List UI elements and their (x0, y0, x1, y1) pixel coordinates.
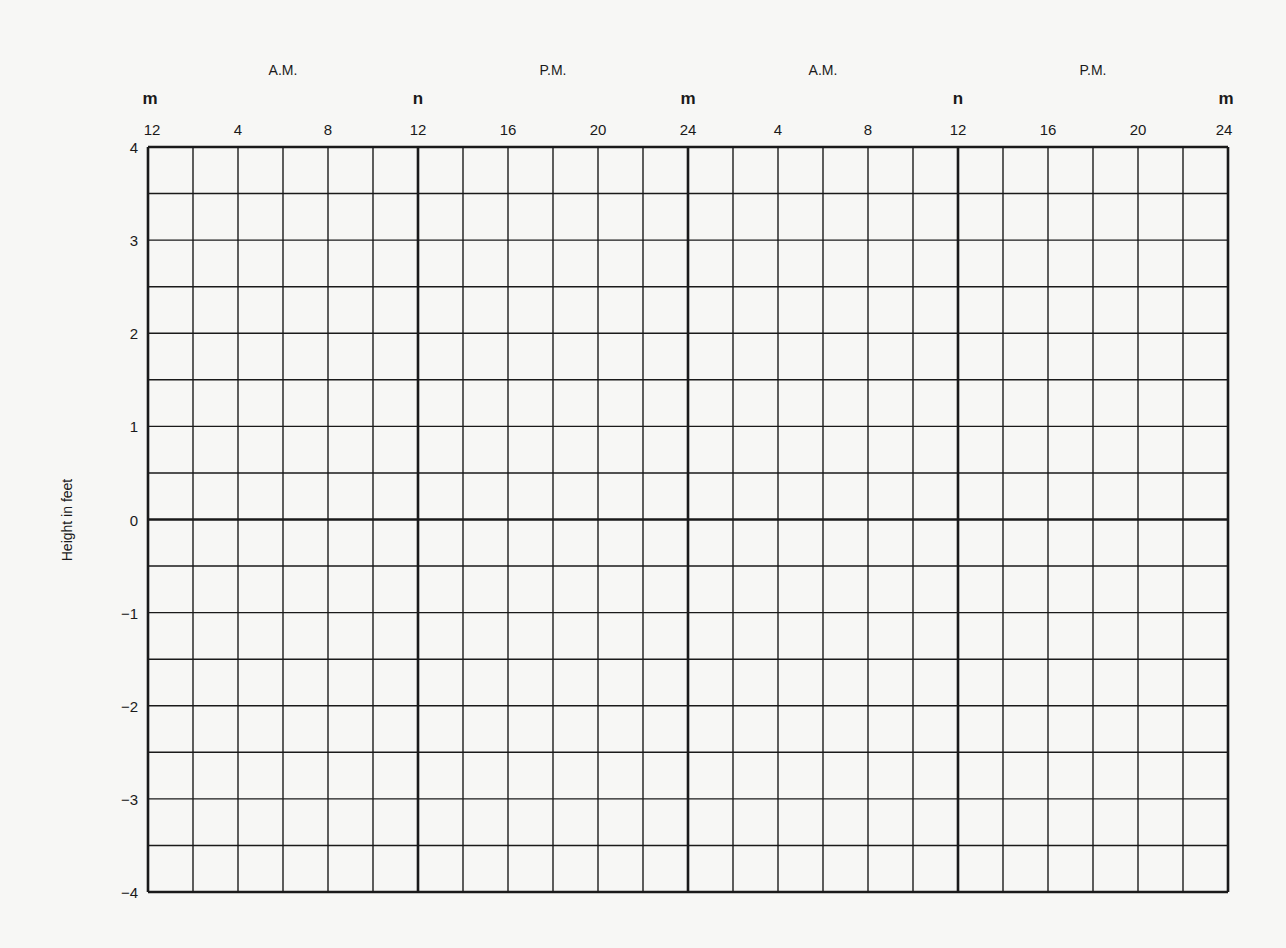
y-tick-label: 2 (130, 325, 138, 342)
midnight-marker: m (142, 89, 157, 109)
midnight-marker: m (680, 89, 695, 109)
x-tick-label: 4 (774, 121, 782, 138)
period-label: P.M. (540, 62, 567, 78)
x-tick-label: 24 (1216, 121, 1233, 138)
x-tick-label: 16 (1040, 121, 1057, 138)
x-tick-label: 8 (324, 121, 332, 138)
y-tick-label: −1 (121, 604, 138, 621)
midnight-marker: m (1218, 89, 1233, 109)
noon-marker: n (413, 89, 423, 109)
x-tick-label: 16 (500, 121, 517, 138)
y-tick-label: −2 (121, 697, 138, 714)
y-tick-label: 0 (130, 511, 138, 528)
period-label: P.M. (1080, 62, 1107, 78)
x-tick-label: 12 (410, 121, 427, 138)
x-tick-label: 20 (590, 121, 607, 138)
tide-chart: A.M.P.M.A.M.P.M.mnmnm1248121620244812162… (0, 0, 1286, 948)
y-tick-label: 4 (130, 139, 138, 156)
y-tick-label: 3 (130, 232, 138, 249)
y-axis-label: Height in feet (59, 479, 75, 562)
x-tick-label: 24 (680, 121, 697, 138)
x-tick-label: 12 (144, 121, 161, 138)
x-tick-label: 20 (1130, 121, 1147, 138)
x-tick-label: 4 (234, 121, 242, 138)
period-label: A.M. (809, 62, 838, 78)
noon-marker: n (953, 89, 963, 109)
y-tick-label: −4 (121, 884, 138, 901)
x-tick-label: 12 (950, 121, 967, 138)
chart-grid (0, 0, 1286, 948)
y-tick-label: 1 (130, 418, 138, 435)
period-label: A.M. (269, 62, 298, 78)
x-tick-label: 8 (864, 121, 872, 138)
y-tick-label: −3 (121, 790, 138, 807)
